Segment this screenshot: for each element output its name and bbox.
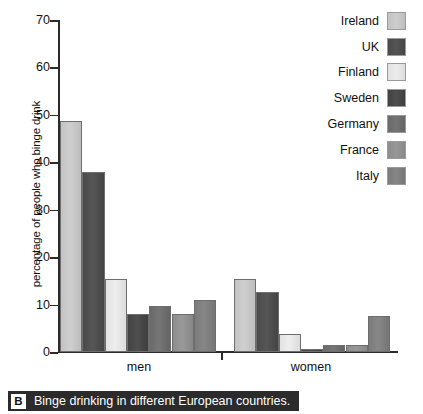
y-axis-tick-label: 40 xyxy=(10,155,50,169)
y-axis-tick-label: 0 xyxy=(10,345,50,359)
bar-germany-men xyxy=(149,306,171,352)
legend-label: Italy xyxy=(356,169,379,183)
bar-germany-women xyxy=(323,345,345,352)
figure-container: percentage of people who binge drink 706… xyxy=(0,0,423,414)
bar-sweden-women xyxy=(301,349,323,352)
legend-swatch xyxy=(387,12,406,30)
legend-swatch xyxy=(387,115,406,133)
legend-label: France xyxy=(340,143,379,157)
y-axis-tick xyxy=(50,67,58,69)
caption-badge: B xyxy=(11,394,26,409)
bar-italy-women xyxy=(368,316,390,352)
legend: IrelandUKFinlandSwedenGermanyFranceItaly xyxy=(256,8,406,189)
legend-item-sweden: Sweden xyxy=(256,85,406,111)
y-axis-tick xyxy=(50,115,58,117)
bar-ireland-men xyxy=(60,121,82,352)
legend-item-uk: UK xyxy=(256,34,406,60)
y-axis-tick-label: 70 xyxy=(10,13,50,27)
y-axis-tick-label: 30 xyxy=(10,203,50,217)
y-axis-tick xyxy=(50,305,58,307)
bar-uk-men xyxy=(82,172,104,352)
group-label-women: women xyxy=(251,360,371,374)
y-axis-tick xyxy=(50,20,58,22)
y-axis-tick-label: 20 xyxy=(10,250,50,264)
legend-item-italy: Italy xyxy=(256,163,406,189)
y-axis-tick xyxy=(50,257,58,259)
legend-label: Ireland xyxy=(341,14,379,28)
y-axis-tick-label: 60 xyxy=(10,60,50,74)
legend-swatch xyxy=(387,63,406,81)
legend-label: Finland xyxy=(338,65,379,79)
bar-france-women xyxy=(346,345,368,352)
bar-uk-women xyxy=(256,292,278,352)
legend-swatch xyxy=(387,141,406,159)
group-separator-tick xyxy=(221,352,223,360)
legend-label: Germany xyxy=(328,117,379,131)
legend-swatch xyxy=(387,167,406,185)
bar-france-men xyxy=(172,314,194,352)
legend-item-france: France xyxy=(256,137,406,163)
y-axis-tick-label: 10 xyxy=(10,298,50,312)
legend-swatch xyxy=(387,89,406,107)
bar-finland-women xyxy=(279,334,301,352)
caption-text: Binge drinking in different European cou… xyxy=(26,391,299,411)
legend-item-finland: Finland xyxy=(256,60,406,86)
y-axis-tick-labels: 706050403020100 xyxy=(8,20,50,352)
y-axis-tick xyxy=(50,162,58,164)
legend-label: Sweden xyxy=(334,91,379,105)
caption-bar: B Binge drinking in different European c… xyxy=(8,391,299,411)
y-axis-tick-label: 50 xyxy=(10,108,50,122)
legend-label: UK xyxy=(362,40,379,54)
bar-ireland-women xyxy=(234,279,256,352)
bar-sweden-men xyxy=(127,314,149,352)
y-axis-tick xyxy=(50,352,58,354)
group-label-men: men xyxy=(79,360,199,374)
legend-item-ireland: Ireland xyxy=(256,8,406,34)
bar-italy-men xyxy=(194,300,216,352)
bar-finland-men xyxy=(105,279,127,352)
legend-item-germany: Germany xyxy=(256,111,406,137)
y-axis-tick xyxy=(50,210,58,212)
legend-swatch xyxy=(387,38,406,56)
